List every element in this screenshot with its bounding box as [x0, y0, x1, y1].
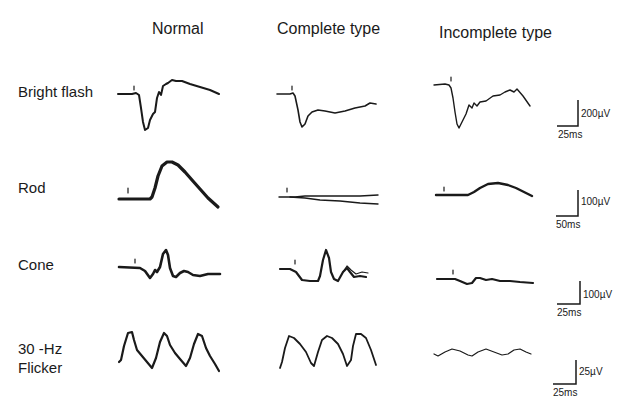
trace-incomplete-cone [437, 270, 533, 284]
scale-time-rod: 50ms [556, 219, 580, 230]
trace-normal-flicker [119, 332, 219, 371]
scale-time-cone: 25ms [557, 307, 581, 318]
trace-complete-flicker [280, 334, 376, 368]
scale-voltage-bright-flash: 200µV [581, 108, 610, 119]
trace-complete-bright-flash [277, 86, 376, 127]
trace-normal-rod [119, 162, 218, 207]
scale-voltage-cone: 100µV [583, 289, 612, 300]
scale-bar-bright-flash [557, 100, 578, 126]
scale-voltage-rod: 100µV [581, 196, 610, 207]
scale-bar-rod [556, 190, 578, 216]
erg-waveforms [0, 0, 631, 409]
scale-bar-cone [557, 281, 580, 304]
trace-incomplete-rod [436, 183, 532, 196]
trace-incomplete-flicker [434, 349, 531, 356]
trace-normal-bright-flash [118, 80, 219, 130]
scale-bar-flicker [553, 360, 576, 384]
scale-time-bright-flash: 25ms [558, 129, 582, 140]
trace-complete-rod [279, 188, 378, 204]
trace-incomplete-bright-flash [434, 77, 530, 128]
trace-complete-cone [280, 250, 368, 281]
scale-voltage-flicker: 25µV [579, 366, 603, 377]
scale-time-flicker: 25ms [553, 387, 577, 398]
trace-normal-cone [119, 250, 220, 278]
